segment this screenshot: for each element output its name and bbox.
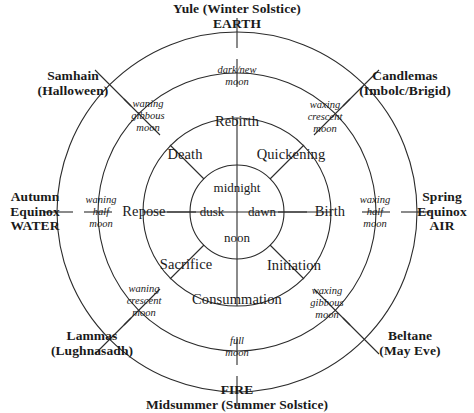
stage-label-rebirth: Rebirth <box>215 114 259 130</box>
waxing-half-line2: half <box>360 206 390 218</box>
time-label-dawn: dawn <box>248 205 276 219</box>
waning-crescent-line3: moon <box>127 307 162 319</box>
moon-label-full-moon: full moon <box>225 335 248 359</box>
time-label-midnight: midnight <box>214 181 261 195</box>
festival-label-autumn-equinox: Autumn Equinox WATER <box>10 190 59 234</box>
spring-equinox-line2: Equinox <box>417 205 466 220</box>
waxing-half-line3: moon <box>360 218 390 230</box>
spoke-outer-se <box>343 318 379 354</box>
moon-label-dark-new-moon: dark/new moon <box>217 64 256 88</box>
stage-label-death: Death <box>167 147 202 163</box>
samhain-name: Samhain <box>47 68 99 83</box>
moon-label-waning-crescent-moon: waning crescent moon <box>127 283 162 318</box>
candlemas-name: Candlemas <box>372 68 437 83</box>
moon-label-waxing-crescent-moon: waxing crescent moon <box>308 99 343 134</box>
stage-label-repose: Repose <box>122 204 165 220</box>
waning-gibbous-line2: gibbous <box>131 110 164 122</box>
festival-label-candlemas: Candlemas (Imbolc/Brigid) <box>359 69 451 98</box>
waning-half-line1: waning <box>86 194 117 206</box>
waxing-gibbous-line1: waxing <box>310 285 343 297</box>
dark-new-moon-line1: dark/new <box>217 64 256 76</box>
yule-element: EARTH <box>173 17 301 32</box>
lammas-alt-name: (Lughnasadh) <box>51 344 133 359</box>
waning-crescent-line1: waning <box>127 283 162 295</box>
stage-label-quickening: Quickening <box>257 147 326 163</box>
yule-name: Yule (Winter Solstice) <box>173 1 301 16</box>
festival-label-midsummer: FIRE Midsummer (Summer Solstice) <box>146 383 328 412</box>
waxing-gibbous-line2: gibbous <box>310 297 343 309</box>
festival-label-beltane: Beltane (May Eve) <box>379 329 440 358</box>
waning-gibbous-line1: waning <box>131 98 164 110</box>
festival-label-spring-equinox: Spring Equinox AIR <box>417 190 466 234</box>
waxing-gibbous-line3: moon <box>310 309 343 321</box>
midsummer-name: Midsummer (Summer Solstice) <box>146 398 328 413</box>
waxing-half-line1: waxing <box>360 194 390 206</box>
time-label-dusk: dusk <box>200 205 225 219</box>
stage-label-sacrifice: Sacrifice <box>160 257 212 273</box>
moon-label-waxing-gibbous-moon: waxing gibbous moon <box>310 285 343 320</box>
beltane-name: Beltane <box>388 328 432 343</box>
full-moon-line2: moon <box>225 347 248 359</box>
moon-label-waning-gibbous-moon: waning gibbous moon <box>131 98 164 133</box>
dark-new-moon-line2: moon <box>217 76 256 88</box>
stage-label-consummation: Consummation <box>192 292 282 308</box>
waning-crescent-line2: crescent <box>127 295 162 307</box>
festival-label-yule: Yule (Winter Solstice) EARTH <box>173 2 301 31</box>
stage-label-birth: Birth <box>315 204 345 220</box>
waxing-crescent-line2: crescent <box>308 111 343 123</box>
waning-half-line3: moon <box>86 218 117 230</box>
moon-label-waxing-half-moon: waxing half moon <box>360 194 390 229</box>
fire-element: FIRE <box>221 382 254 397</box>
candlemas-alt-name: (Imbolc/Brigid) <box>359 84 451 99</box>
waning-half-line2: half <box>86 206 117 218</box>
autumn-equinox-line1: Autumn <box>11 189 60 204</box>
autumn-equinox-line2: Equinox <box>10 205 59 220</box>
beltane-alt-name: (May Eve) <box>379 344 440 359</box>
full-moon-line1: full <box>225 335 248 347</box>
samhain-alt-name: (Halloween) <box>38 84 109 99</box>
time-label-noon: noon <box>224 231 250 245</box>
spring-equinox-line1: Spring <box>422 189 462 204</box>
festival-label-samhain: Samhain (Halloween) <box>38 69 109 98</box>
waxing-crescent-line1: waxing <box>308 99 343 111</box>
waning-gibbous-line3: moon <box>131 122 164 134</box>
autumn-equinox-element: WATER <box>10 219 59 234</box>
spring-equinox-element: AIR <box>417 219 466 234</box>
lammas-name: Lammas <box>67 328 118 343</box>
festival-label-lammas: Lammas (Lughnasadh) <box>51 329 133 358</box>
stage-label-initiation: Initiation <box>267 258 321 274</box>
waxing-crescent-line3: moon <box>308 123 343 135</box>
moon-label-waning-half-moon: waning half moon <box>86 194 117 229</box>
